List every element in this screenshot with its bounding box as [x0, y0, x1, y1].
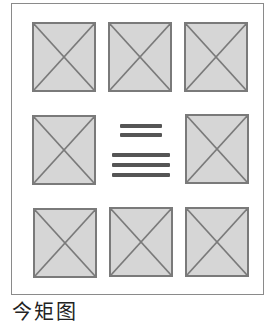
figure-caption: 今矩图: [12, 300, 78, 324]
body-line: [112, 153, 170, 157]
image-placeholder-icon: [186, 24, 246, 90]
image-placeholder-icon: [187, 209, 247, 275]
body-line: [112, 163, 170, 167]
body-line: [112, 173, 170, 177]
image-placeholder-1: [32, 22, 96, 92]
heading-line: [120, 133, 162, 137]
image-placeholder-icon: [34, 117, 94, 183]
image-placeholder-3: [184, 22, 248, 92]
image-placeholder-icon: [111, 209, 171, 275]
image-placeholder-4: [32, 115, 96, 185]
image-placeholder-5: [185, 114, 249, 184]
image-placeholder-icon: [110, 24, 170, 90]
image-placeholder-icon: [34, 24, 94, 90]
image-placeholder-7: [109, 207, 173, 277]
image-placeholder-icon: [35, 210, 95, 276]
heading-line: [120, 124, 162, 128]
image-placeholder-6: [33, 208, 97, 278]
image-placeholder-icon: [187, 116, 247, 182]
image-placeholder-8: [185, 207, 249, 277]
image-placeholder-2: [108, 22, 172, 92]
